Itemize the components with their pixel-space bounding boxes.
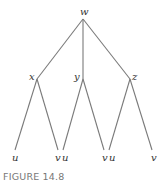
node-z-label: z: [131, 71, 138, 82]
figure-caption: FIGURE 14.8: [3, 171, 65, 182]
edge-z-u: [109, 79, 130, 150]
node-x-label: x: [29, 71, 35, 82]
node-root-label: w: [80, 6, 89, 17]
edge-z-v: [130, 79, 152, 150]
edge-y-v: [83, 79, 104, 150]
leaf-label: u: [62, 152, 68, 163]
leaf-label: v: [151, 152, 157, 163]
edge-x-u: [15, 79, 37, 150]
edge-y-u: [63, 79, 83, 150]
edge-x-v: [37, 79, 58, 150]
edge-w-z: [83, 19, 130, 79]
tree-diagram: w x y z u v u v u v: [0, 0, 164, 184]
leaf-label: v: [55, 152, 61, 163]
leaf-label: u: [109, 152, 115, 163]
edge-w-x: [37, 19, 83, 79]
leaf-label: u: [12, 152, 18, 163]
leaf-label: v: [102, 152, 108, 163]
node-y-label: y: [73, 71, 80, 82]
